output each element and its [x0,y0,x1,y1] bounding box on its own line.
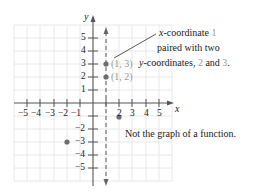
y-tick-label: 3 [81,59,86,69]
x-tick-label: −5 [18,109,28,119]
y-tick-label: 4 [81,46,86,56]
x-tick-label: 4 [144,109,149,119]
conclusion-text: Not the graph of a function. [125,129,236,139]
point-1-2 [103,74,108,79]
y-tick-label: −5 [75,163,85,173]
arrow-down-icon [104,179,109,186]
x-tick-label: 3 [130,109,135,119]
x-axis-label: x [175,104,179,114]
annotation-line-3: y-coordinates, 2 and 3. [139,58,230,68]
annotation-line-2: paired with two [157,43,220,53]
y-tick-label: −3 [75,137,85,147]
x-tick-label: −2 [58,109,68,119]
point-label-1-2: (1, 2) [111,72,133,82]
y-axis-arrow-icon [91,15,96,22]
x-tick-label: −1 [71,109,81,119]
x-tick-label: −4 [31,109,41,119]
axes [14,15,174,186]
y-tick-label: −4 [75,150,85,160]
x-tick-label: −3 [45,109,55,119]
y-tick-label: 2 [81,72,86,82]
x-tick-label: 5 [157,109,162,119]
point-1-3 [103,61,108,66]
y-axis-label: y [84,12,88,22]
y-tick-label: −2 [75,124,85,134]
point-label-1-3: (1, 3) [111,59,133,69]
annotation-line-1: x-coordinate 1 [159,28,217,38]
x-tick-label: 2 [117,109,122,119]
point-neg2-neg3 [64,139,69,144]
y-tick-label: 5 [81,33,86,43]
y-tick-label: 1 [81,85,86,95]
x-axis-arrow-icon [167,101,174,106]
arrow-up-icon [104,27,109,34]
